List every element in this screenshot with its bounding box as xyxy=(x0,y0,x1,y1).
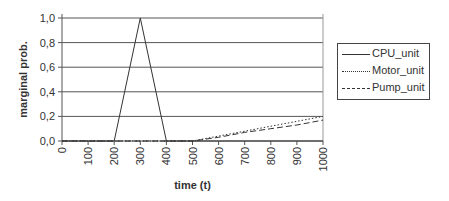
x-tick-label: 100 xyxy=(82,147,94,165)
y-tick-label: 1,0 xyxy=(40,12,55,24)
x-tick-label: 600 xyxy=(213,147,225,165)
x-tick-label: 900 xyxy=(291,147,303,165)
x-tick-label: 800 xyxy=(265,147,277,165)
x-tick-label: 500 xyxy=(187,147,199,165)
x-tick-label: 200 xyxy=(108,147,120,165)
y-tick-label: 0,6 xyxy=(40,61,55,73)
dotted-line-icon xyxy=(342,71,370,72)
legend: CPU_unit Motor_unit Pump_unit xyxy=(337,43,430,100)
x-tick-label: 300 xyxy=(134,147,146,165)
x-tick-label: 1000 xyxy=(317,147,329,171)
y-tick-label: 0,8 xyxy=(40,37,55,49)
legend-item-cpu: CPU_unit xyxy=(342,46,428,62)
x-tick-label: 400 xyxy=(160,147,172,165)
series-line-pump_unit xyxy=(62,120,323,141)
x-axis-title: time (t) xyxy=(174,179,211,191)
dashed-line-icon xyxy=(342,88,370,89)
chart-canvas: 0,00,20,40,60,81,00100200300400500600700… xyxy=(0,0,449,201)
y-axis-title: marginal prob. xyxy=(17,41,29,117)
legend-item-pump: Pump_unit xyxy=(342,80,428,96)
series-line-motor_unit xyxy=(62,116,323,141)
y-tick-label: 0,4 xyxy=(40,86,55,98)
solid-line-icon xyxy=(342,54,370,55)
x-tick-label: 700 xyxy=(239,147,251,165)
legend-item-motor: Motor_unit xyxy=(342,63,428,79)
x-tick-label: 0 xyxy=(56,147,68,153)
y-tick-label: 0,0 xyxy=(40,135,55,147)
y-tick-label: 0,2 xyxy=(40,110,55,122)
series-line-cpu_unit xyxy=(62,18,323,141)
